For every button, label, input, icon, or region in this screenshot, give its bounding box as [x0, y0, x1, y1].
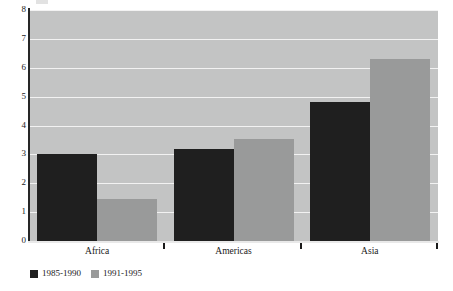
y-axis-tick-label: 2 [4, 178, 26, 187]
legend-label: 1985-1990 [42, 269, 81, 278]
x-axis-tick [436, 243, 438, 249]
x-axis-category-label: Africa [47, 246, 147, 257]
x-axis-category-label: Americas [184, 246, 284, 257]
x-axis-tick [300, 243, 302, 249]
x-axis-line [28, 241, 439, 243]
y-axis-tick-label: 4 [4, 121, 26, 130]
legend-swatch-icon [91, 270, 99, 278]
x-axis-tick [163, 243, 165, 249]
bar-africa-1991-1995 [97, 199, 157, 241]
gridline [29, 39, 438, 40]
bar-asia-1985-1990 [310, 102, 370, 241]
y-axis-tick-label: 3 [4, 149, 26, 158]
legend-item-1991-1995[interactable]: 1991-1995 [91, 269, 142, 278]
bar-chart: 012345678 AfricaAmericasAsia 1985-1990 1… [0, 0, 453, 291]
y-axis-tick-label: 5 [4, 92, 26, 101]
gridline [29, 10, 438, 11]
bar-americas-1985-1990 [174, 149, 234, 241]
bar-africa-1985-1990 [37, 154, 97, 241]
legend: 1985-1990 1991-1995 [30, 269, 142, 278]
top-edge-artifact [36, 0, 48, 4]
legend-item-1985-1990[interactable]: 1985-1990 [30, 269, 81, 278]
y-axis-tick-labels: 012345678 [0, 0, 26, 291]
plot-area [29, 10, 438, 241]
bar-asia-1991-1995 [370, 59, 430, 241]
y-axis-line [28, 8, 30, 243]
y-axis-tick-label: 0 [4, 236, 26, 245]
y-axis-tick-label: 8 [4, 5, 26, 14]
y-axis-tick-label: 1 [4, 207, 26, 216]
legend-swatch-icon [30, 270, 38, 278]
bar-americas-1991-1995 [234, 139, 294, 242]
y-axis-tick-label: 7 [4, 34, 26, 43]
y-axis-tick-label: 6 [4, 63, 26, 72]
x-axis-category-label: Asia [320, 246, 420, 257]
legend-label: 1991-1995 [103, 269, 142, 278]
